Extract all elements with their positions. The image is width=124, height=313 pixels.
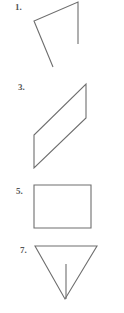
rectangle-shape	[34, 185, 91, 228]
figures-canvas: 1. 3. 5. 7.	[0, 0, 124, 313]
figure-1: 1.	[15, 2, 78, 67]
parallelogram-shape	[34, 84, 86, 168]
figure-5-label: 5.	[16, 186, 23, 196]
figure-5: 5.	[16, 185, 91, 228]
figure-3: 3.	[18, 82, 86, 168]
open-polyline-shape	[34, 2, 78, 67]
figure-3-label: 3.	[18, 82, 25, 92]
figure-7: 7.	[20, 245, 97, 299]
figure-1-label: 1.	[15, 2, 22, 12]
figure-7-label: 7.	[20, 245, 27, 255]
